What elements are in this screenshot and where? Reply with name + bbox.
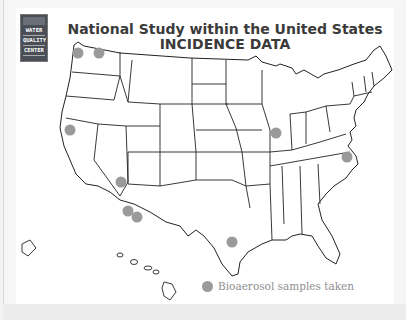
map-legend: Bioaerosol samples taken [202, 278, 354, 294]
us-map [0, 0, 406, 320]
hawaii-islands [117, 253, 176, 300]
alaska-shape [22, 240, 36, 256]
legend-dot-icon [202, 281, 213, 292]
legend-label: Bioaerosol samples taken [218, 280, 354, 292]
